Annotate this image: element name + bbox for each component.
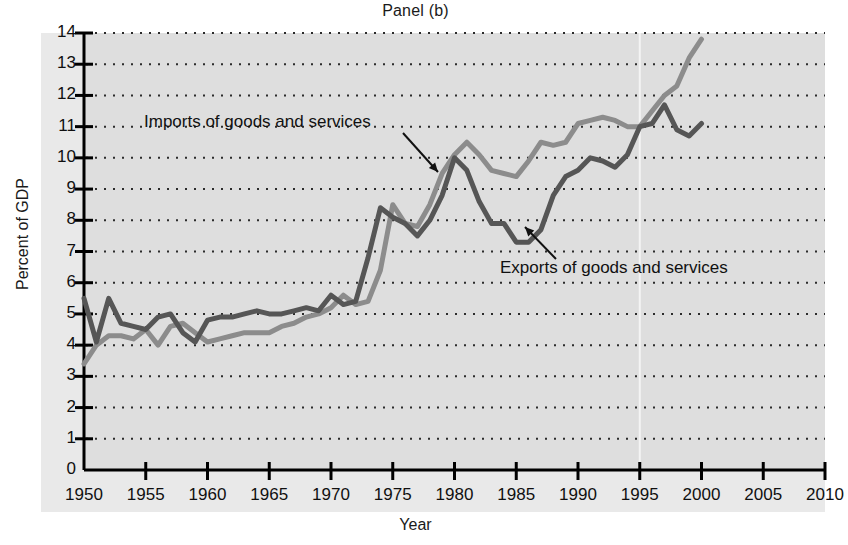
x-axis-label: Year [0,516,831,534]
y-tick-label: 0 [38,459,76,479]
gridlines [86,33,825,439]
y-tick-label: 4 [38,334,76,354]
y-tick-label: 9 [38,178,76,198]
series-exports-line [84,105,702,342]
y-tick-label: 6 [38,272,76,292]
imports-annotation-label: Imports of goods and services [144,112,371,132]
x-tick-label: 1980 [420,485,490,505]
y-tick-label: 2 [38,397,76,417]
y-tick-label: 13 [38,53,76,73]
y-tick-label: 5 [38,303,76,323]
y-tick-label: 10 [38,147,76,167]
x-tick-label: 2000 [667,485,737,505]
x-tick-label: 1990 [543,485,613,505]
y-tick-label: 8 [38,209,76,229]
x-tick-label: 1970 [296,485,366,505]
y-tick-label: 1 [38,428,76,448]
y-tick-label: 7 [38,241,76,261]
series-imports-line [84,39,702,364]
y-tick-label: 11 [38,116,76,136]
y-tick-label: 12 [38,84,76,104]
x-tick-label: 1965 [234,485,304,505]
y-tick-label: 3 [38,365,76,385]
x-tick-label: 2005 [728,485,798,505]
x-tick-label: 1950 [49,485,119,505]
y-axis-label: Percent of GDP [14,154,32,314]
x-tick-label: 1960 [173,485,243,505]
exports-annotation-label: Exports of goods and services [500,258,728,278]
x-tick-label: 1985 [481,485,551,505]
y-tick-label: 14 [38,22,76,42]
x-tick-label: 1955 [111,485,181,505]
x-tick-label: 1975 [358,485,428,505]
x-tick-label: 1995 [605,485,675,505]
x-tick-label: 2010 [790,485,848,505]
